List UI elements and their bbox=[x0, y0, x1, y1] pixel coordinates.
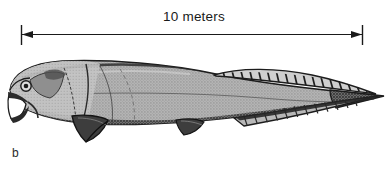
pelvic-fin bbox=[176, 119, 204, 135]
scale-bar-label: 10 meters bbox=[0, 9, 388, 24]
figure-label: b bbox=[12, 146, 19, 160]
fish-illustration bbox=[0, 48, 388, 152]
eye bbox=[21, 81, 31, 91]
pectoral-fin bbox=[72, 115, 108, 142]
scale-bar: 10 meters bbox=[0, 0, 388, 50]
fish-illustration-graphic bbox=[0, 48, 388, 152]
arrow-right-icon bbox=[351, 31, 362, 38]
arrow-left-icon bbox=[22, 31, 33, 38]
figure-panel: 10 meters bbox=[0, 0, 388, 169]
scale-bar-graphic bbox=[0, 0, 388, 50]
eye-pupil bbox=[24, 84, 29, 89]
